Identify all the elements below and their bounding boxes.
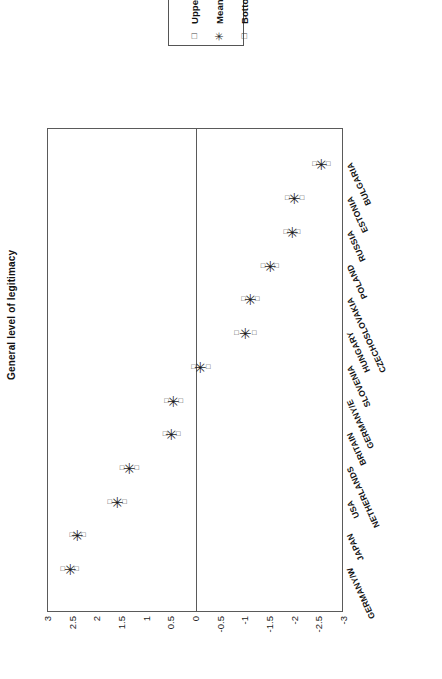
mean-marker: ✳: [239, 326, 252, 341]
tick-label: -1.5: [269, 616, 270, 617]
mean-marker: ✳: [244, 292, 257, 307]
tick-label: 1.5: [121, 616, 122, 617]
mean-marker: ✳: [64, 562, 77, 577]
category-label: CZECHOSLOVAKIA: [349, 298, 350, 299]
category-label: GERMANY/E: [349, 400, 350, 401]
plot-area: □□✳□□✳□□✳□□✳□□✳□□✳□□✳□□✳□□✳□□✳□□✳□□✳□□✳: [47, 128, 343, 612]
tick-label: 2.5: [72, 616, 73, 617]
mean-marker: ✳: [264, 258, 277, 273]
value-axis-title: General level of legitimacy: [6, 250, 17, 380]
tick-label: -2.5: [318, 616, 319, 617]
tick-label: -1: [244, 616, 245, 617]
mean-marker: ✳: [286, 224, 299, 239]
legend-entry-bottom-limit: □ Bottom limit: [233, 0, 255, 43]
category-label-text: GERMANY/W: [344, 566, 377, 621]
category-label: NETHERLANDS: [349, 467, 350, 468]
tick-label: -3: [343, 616, 344, 617]
category-label: BULGARIA: [349, 163, 350, 164]
tick-label-text: 1: [140, 616, 151, 621]
tick-label-text: -2.5: [313, 616, 324, 632]
category-label-text: JAPAN: [344, 532, 365, 563]
legend-label-mean: Mean: [214, 0, 225, 24]
mean-marker: ✳: [165, 427, 178, 442]
category-label: JAPAN: [349, 534, 350, 535]
category-label: ESTONIA: [349, 197, 350, 198]
star-marker-icon: ✳: [214, 29, 225, 43]
category-label: USA: [349, 501, 350, 502]
tick-label-text: -0.5: [214, 616, 225, 632]
tick-label: 0.5: [170, 616, 171, 617]
tick-label-text: -1.5: [264, 616, 275, 632]
tick-label-text: -1: [239, 616, 250, 624]
tick-label-text: -3: [338, 616, 349, 624]
legend: □ Upper limit ✳ Mean □ Bottom limit: [168, 0, 244, 46]
category-label: HUNGARY: [349, 332, 350, 333]
mean-marker: ✳: [71, 528, 84, 543]
tick-label: 3: [47, 616, 48, 617]
mean-marker: ✳: [194, 359, 207, 374]
tick-label-text: 0: [190, 616, 201, 621]
mean-marker: ✳: [167, 393, 180, 408]
category-label-text: POLAND: [344, 262, 369, 300]
category-label-text: RUSSIA: [344, 229, 367, 263]
tick-label: 2: [96, 616, 97, 617]
tick-label-text: 0.5: [165, 616, 176, 629]
legend-label-upper-limit: Upper limit: [189, 0, 200, 24]
mean-marker: ✳: [288, 191, 301, 206]
mean-marker: ✳: [111, 494, 124, 509]
tick-label-text: 2.5: [66, 616, 77, 629]
mean-marker: ✳: [123, 461, 136, 476]
mean-marker: ✳: [315, 157, 328, 172]
tick-label: -0.5: [220, 616, 221, 617]
legend-label-bottom-limit: Bottom limit: [239, 0, 250, 24]
legend-entry-upper-limit: □ Upper limit: [183, 0, 205, 43]
tick-label-text: 1.5: [116, 616, 127, 629]
category-label: POLAND: [349, 265, 350, 266]
tick-label-text: 3: [42, 616, 53, 621]
square-marker-icon: □: [240, 29, 249, 43]
tick-label-text: -2: [288, 616, 299, 624]
tick-label: 0: [195, 616, 196, 617]
tick-label-text: 2: [91, 616, 102, 621]
category-label-text: NETHERLANDS: [344, 465, 381, 529]
legend-entry-mean: ✳ Mean: [208, 0, 230, 43]
category-label: RUSSIA: [349, 231, 350, 232]
bottom-limit-marker: □: [252, 329, 257, 337]
tick-label: 1: [146, 616, 147, 617]
category-label: SLOVENIA: [349, 366, 350, 367]
square-marker-icon: □: [190, 29, 199, 43]
category-label: GERMANY/W: [349, 568, 350, 569]
category-label: BRITAIN: [349, 433, 350, 434]
tick-label: -2: [294, 616, 295, 617]
